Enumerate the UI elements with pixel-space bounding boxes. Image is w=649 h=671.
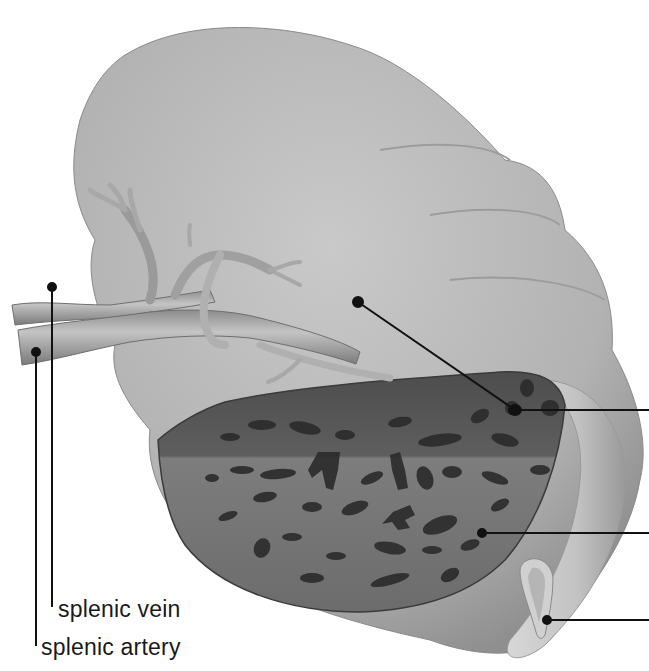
spleen-diagram: splenic vein splenic artery (0, 0, 649, 671)
label-splenic-artery: splenic artery (41, 636, 181, 659)
spleen-illustration (0, 0, 649, 671)
label-splenic-vein: splenic vein (58, 598, 181, 621)
